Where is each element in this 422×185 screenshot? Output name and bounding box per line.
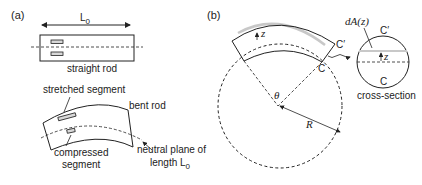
bent-rod	[43, 105, 133, 150]
cross-section-c-label: C	[380, 76, 387, 87]
stretched-pointer	[64, 97, 70, 112]
stretched-segment-label: stretched segment	[43, 84, 125, 95]
neutral-label-line1: neutral plane of	[137, 144, 206, 155]
bent-rod-segment	[232, 25, 335, 62]
z-label: z	[260, 27, 266, 39]
dA-pointer	[364, 28, 372, 48]
panel-a-label: (a)	[11, 9, 24, 21]
bent-rod-neutral-plane	[41, 126, 142, 140]
r-label: R	[305, 118, 313, 130]
panel-a: (a) L0 straight rod stretched segment be…	[11, 9, 206, 171]
c-label: C	[318, 63, 325, 74]
length-label: L0	[80, 12, 91, 26]
radius-line-right	[278, 62, 322, 106]
radius-line-left	[244, 61, 278, 106]
bottom-segment	[51, 52, 63, 56]
panel-b-label: (b)	[207, 9, 220, 21]
panel-b: (b) z C′ C θ R z C′ C dA(z) cross-sectio…	[207, 9, 416, 168]
bending-diagram: (a) L0 straight rod stretched segment be…	[0, 0, 422, 185]
compressed-label-line1: compressed	[54, 147, 108, 158]
neutral-label-line2: length L0	[150, 157, 191, 171]
compressed-label-line2: segment	[62, 159, 101, 170]
straight-rod-label: straight rod	[67, 63, 117, 74]
cross-section-c-prime-label: C′	[380, 25, 389, 36]
straight-rod	[40, 35, 134, 61]
theta-label: θ	[274, 89, 280, 101]
c-prime-label: C′	[336, 39, 345, 50]
bent-rod-label: bent rod	[129, 100, 166, 111]
compressed-segment	[67, 128, 76, 133]
dA-strip	[238, 24, 325, 45]
compressed-pointer	[66, 135, 71, 146]
top-segment	[51, 40, 63, 44]
cross-section-z-label: z	[383, 50, 389, 62]
cross-section-label: cross-section	[357, 90, 416, 101]
connector-arrow	[328, 55, 350, 58]
dA-label: dA(z)	[345, 15, 369, 28]
